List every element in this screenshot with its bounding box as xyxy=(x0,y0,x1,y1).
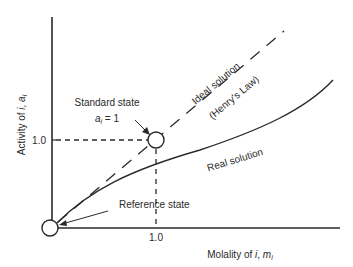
y-tick-label: 1.0 xyxy=(32,135,46,146)
real-solution-label: Real solution xyxy=(206,146,265,173)
reference-state-marker xyxy=(42,220,58,236)
standard-state-marker xyxy=(148,132,164,148)
x-tick-label: 1.0 xyxy=(149,232,163,243)
standard-state-equation: ai = 1 xyxy=(95,113,120,125)
x-axis-label: Molality of i, mi xyxy=(207,249,273,261)
standard-state-label: Standard state xyxy=(74,97,139,108)
reference-state-arrow xyxy=(62,211,108,224)
activity-molality-diagram: 1.0 1.0 Activity of i, ai Molality of i,… xyxy=(0,0,353,267)
reference-state-label: Reference state xyxy=(119,199,190,210)
y-axis-label: Activity of i, ai xyxy=(16,94,28,155)
ideal-solution-line xyxy=(58,31,284,222)
